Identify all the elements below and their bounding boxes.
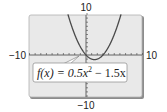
- y-min-label: −10: [78, 100, 95, 111]
- equation-label: f(x) = 0.5x2 − 1.5x: [37, 65, 126, 80]
- x-max-label: 10: [146, 50, 158, 61]
- graphing-calculator-plot: f(x) = 0.5x2 − 1.5x 10 −10 −10 10: [0, 0, 167, 112]
- x-min-label: −10: [9, 50, 26, 61]
- screen-window: [29, 15, 142, 97]
- y-max-label: 10: [80, 2, 92, 13]
